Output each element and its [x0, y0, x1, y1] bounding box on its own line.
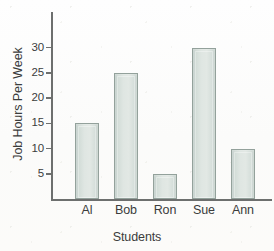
y-axis-tick-mark [46, 148, 53, 150]
x-axis-label-ann: Ann [220, 204, 266, 217]
bar-ann [231, 149, 255, 200]
y-axis-title-text: Job Hours Per Week [11, 47, 25, 160]
y-axis-tick-mark [46, 97, 53, 99]
y-axis-tick-mark [46, 173, 53, 175]
x-axis-title: Students [0, 230, 274, 244]
y-axis-title: Job Hours Per Week [9, 24, 27, 184]
x-axis-line [51, 199, 272, 201]
bar-ron [153, 174, 177, 199]
bar-bob [114, 73, 138, 199]
y-axis-tick-mark [46, 123, 53, 125]
bar-chart: 51015202530 AlBobRonSueAnn Job Hours Per… [0, 0, 274, 251]
y-axis-tick-mark [46, 72, 53, 74]
y-axis-tick-mark [46, 47, 53, 49]
bar-al [75, 123, 99, 199]
bar-sue [192, 48, 216, 200]
